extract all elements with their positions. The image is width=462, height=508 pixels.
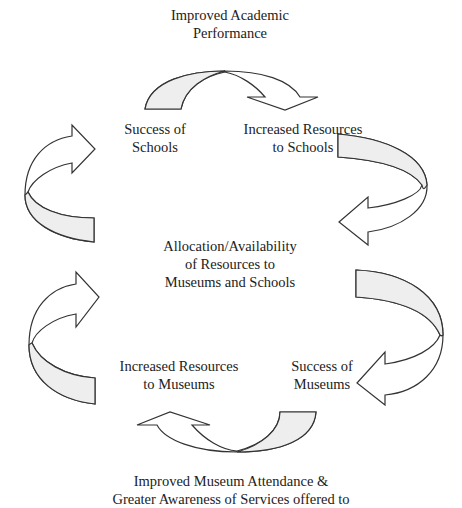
resources-schools-label: Increased Resources to Schools xyxy=(228,120,378,156)
top-arrow-icon xyxy=(145,71,318,110)
center-label: Allocation/Availability of Resources to … xyxy=(130,237,330,291)
top-outcome-label: Improved Academic Performance xyxy=(130,6,330,42)
resources-museums-line1: Increased Resources xyxy=(104,357,254,375)
success-schools-line2: Schools xyxy=(100,138,210,156)
center-line1: Allocation/Availability xyxy=(130,237,330,255)
bottom-arrow-icon xyxy=(137,412,316,452)
center-line2: of Resources to xyxy=(130,255,330,273)
bottom-outcome-line1: Improved Museum Attendance & xyxy=(90,472,372,490)
success-museums-line1: Success of xyxy=(272,357,372,375)
top-outcome-line1: Improved Academic xyxy=(130,6,330,24)
resources-schools-line1: Increased Resources xyxy=(228,120,378,138)
success-museums-line2: Museums xyxy=(272,375,372,393)
resources-schools-line2: to Schools xyxy=(228,138,378,156)
upper-left-arrow-icon xyxy=(25,125,95,242)
success-schools-label: Success of Schools xyxy=(100,120,210,156)
resources-museums-label: Increased Resources to Museums xyxy=(104,357,254,393)
success-schools-line1: Success of xyxy=(100,120,210,138)
center-line3: Museums and Schools xyxy=(130,273,330,291)
top-outcome-line2: Performance xyxy=(130,24,330,42)
bottom-outcome-label: Improved Museum Attendance & Greater Awa… xyxy=(90,472,372,508)
resources-museums-line2: to Museums xyxy=(104,375,254,393)
lower-left-arrow-icon xyxy=(29,272,99,404)
success-museums-label: Success of Museums xyxy=(272,357,372,393)
bottom-outcome-line2: Greater Awareness of Services offered to xyxy=(90,490,372,508)
